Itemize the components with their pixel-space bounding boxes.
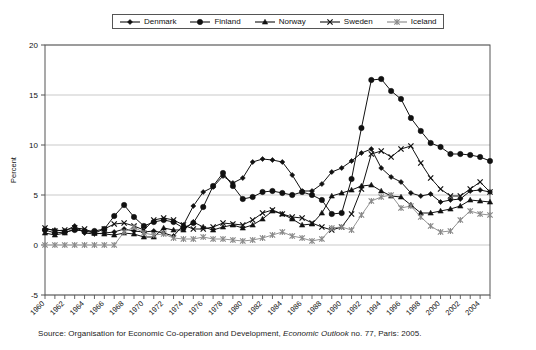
x-marker-icon: [408, 143, 413, 148]
asterisk-glyph: [369, 198, 374, 204]
circle-glyph: [339, 210, 344, 215]
circle-marker-icon: [240, 196, 245, 201]
y-tick-label: 0: [34, 241, 39, 250]
circle-glyph: [329, 211, 334, 216]
asterisk-marker-icon: [369, 198, 374, 204]
circle-marker-icon: [230, 183, 235, 188]
x-tick-label: 1974: [167, 299, 185, 317]
diamond-marker-icon: [478, 188, 483, 193]
series-norway: [42, 182, 492, 239]
asterisk-marker-icon: [428, 223, 433, 229]
triangle-marker-icon: [458, 203, 463, 208]
circle-glyph: [448, 151, 453, 156]
diamond-glyph: [250, 160, 255, 165]
circle-glyph: [428, 140, 433, 145]
diamond-marker-icon: [250, 160, 255, 165]
y-axis: 20151050-5: [29, 41, 45, 300]
circle-marker-icon: [339, 210, 344, 215]
x-marker-icon: [349, 211, 354, 216]
circle-glyph: [250, 194, 255, 199]
series-iceland: [42, 192, 492, 248]
asterisk-marker-icon: [280, 229, 285, 235]
circle-glyph: [408, 115, 413, 120]
triangle-marker-icon: [369, 182, 374, 187]
x-tick-label: 1964: [68, 299, 86, 317]
circle-marker-icon: [112, 213, 117, 218]
circle-glyph: [240, 196, 245, 201]
circle-marker-icon: [131, 214, 136, 219]
x-tick-label: 2004: [463, 299, 481, 317]
circle-glyph: [131, 214, 136, 219]
series-line: [45, 149, 490, 236]
circle-glyph: [418, 128, 423, 133]
x-tick-label: 1978: [206, 299, 224, 317]
circle-glyph: [299, 189, 304, 194]
circle-glyph: [220, 170, 225, 175]
asterisk-glyph: [418, 214, 423, 220]
x-marker-icon: [418, 160, 423, 165]
x-tick-label: 1992: [345, 299, 363, 317]
x-axis: 1960196219641966196819701972197419761978…: [28, 295, 490, 317]
x-marker-icon: [478, 179, 483, 184]
triangle-marker-icon: [161, 225, 166, 230]
triangle-glyph: [250, 222, 255, 227]
circle-marker-icon: [487, 158, 492, 163]
asterisk-marker-icon: [270, 232, 275, 238]
x-tick-label: 2002: [444, 299, 462, 317]
x-tick-label: 1962: [48, 299, 66, 317]
x-glyph: [260, 210, 265, 215]
asterisk-glyph: [428, 223, 433, 229]
x-tick-label: 1986: [285, 299, 303, 317]
triangle-glyph: [458, 203, 463, 208]
diamond-glyph: [369, 147, 374, 152]
circle-marker-icon: [309, 192, 314, 197]
circle-glyph: [379, 76, 384, 81]
x-glyph: [349, 211, 354, 216]
diamond-glyph: [260, 157, 265, 162]
circle-marker-icon: [359, 125, 364, 130]
circle-marker-icon: [290, 192, 295, 197]
asterisk-glyph: [468, 208, 473, 214]
x-tick-label: 1996: [384, 299, 402, 317]
circle-marker-icon: [250, 194, 255, 199]
y-tick-label: -5: [31, 291, 39, 300]
circle-glyph: [359, 125, 364, 130]
asterisk-marker-icon: [121, 229, 126, 235]
asterisk-marker-icon: [468, 208, 473, 214]
x-tick-label: 1968: [107, 299, 125, 317]
circle-glyph: [319, 197, 324, 202]
unemployment-rate-chart: DenmarkFinlandNorwaySwedenIceland 201510…: [0, 0, 536, 350]
circle-marker-icon: [379, 76, 384, 81]
circle-marker-icon: [210, 183, 215, 188]
x-marker-icon: [389, 154, 394, 159]
circle-marker-icon: [201, 204, 206, 209]
x-marker-icon: [260, 210, 265, 215]
circle-glyph: [468, 152, 473, 157]
x-glyph: [438, 186, 443, 191]
circle-glyph: [388, 88, 393, 93]
circle-marker-icon: [349, 176, 354, 181]
x-tick-label: 1990: [325, 299, 343, 317]
diamond-marker-icon: [240, 176, 245, 181]
asterisk-glyph: [121, 229, 126, 235]
circle-marker-icon: [418, 128, 423, 133]
asterisk-glyph: [270, 232, 275, 238]
x-marker-icon: [438, 186, 443, 191]
circle-marker-icon: [260, 189, 265, 194]
asterisk-glyph: [359, 212, 364, 218]
diamond-glyph: [270, 158, 275, 163]
x-tick-label: 1960: [28, 299, 46, 317]
source-suffix: no. 77, Paris: 2005.: [349, 329, 422, 338]
circle-marker-icon: [280, 190, 285, 195]
x-tick-label: 1970: [127, 299, 145, 317]
circle-marker-icon: [319, 197, 324, 202]
x-tick-label: 1982: [246, 299, 264, 317]
diamond-marker-icon: [369, 147, 374, 152]
circle-marker-icon: [438, 144, 443, 149]
y-tick-label: 15: [29, 91, 38, 100]
circle-glyph: [112, 213, 117, 218]
y-axis-title: Percent: [9, 156, 18, 183]
x-glyph: [398, 146, 403, 151]
circle-glyph: [121, 202, 126, 207]
circle-glyph: [270, 188, 275, 193]
